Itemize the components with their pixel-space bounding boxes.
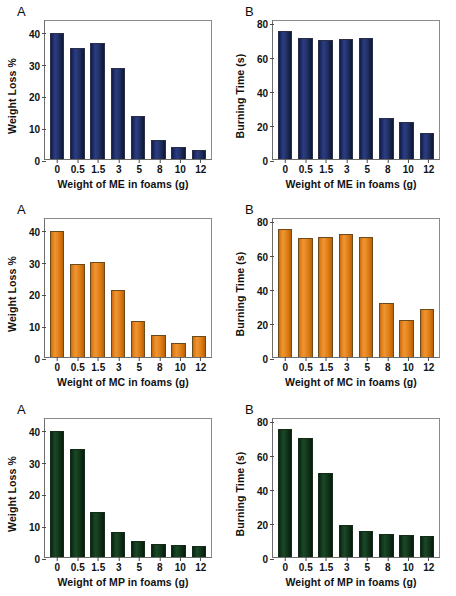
x-axis-tick-label: 12 — [423, 557, 434, 573]
x-axis-tick-label: 0.5 — [71, 159, 85, 175]
bar — [90, 43, 105, 159]
y-axis-tick-label: 60 — [257, 53, 273, 64]
y-axis-tick-label: 0 — [262, 354, 273, 365]
bar-slot — [88, 21, 108, 159]
x-axis-tick-label: 10 — [403, 357, 414, 373]
bar — [111, 68, 126, 159]
bar-slot — [275, 21, 295, 159]
bar — [50, 431, 65, 557]
panel-mp-burning-time: BBurning Time (s)Weight of MP in foams (… — [228, 398, 456, 596]
x-axis-tick-label: 1.5 — [319, 357, 333, 373]
bar-slot — [376, 219, 396, 357]
x-axis-tick-label: 10 — [175, 557, 186, 573]
x-axis-tick-label: 8 — [385, 159, 391, 175]
bar — [192, 150, 207, 159]
panel-mp-weight-loss: AWeight Loss %Weight of MP in foams (g)0… — [0, 398, 228, 596]
y-axis-tick-label: 10 — [29, 522, 45, 533]
bar — [379, 303, 394, 357]
bar-slot — [67, 419, 87, 557]
panel-letter: A — [17, 402, 26, 417]
x-axis-tick-label: 8 — [157, 159, 163, 175]
bar — [90, 262, 105, 357]
x-axis-tick-label: 10 — [403, 557, 414, 573]
x-axis-tick-label: 8 — [157, 357, 163, 373]
bar-slot — [417, 219, 437, 357]
x-axis-tick-label: 12 — [195, 557, 206, 573]
y-axis-tick-label: 80 — [257, 19, 273, 30]
bar — [379, 534, 394, 557]
y-axis-tick-label: 60 — [257, 451, 273, 462]
bar — [399, 122, 414, 159]
bar-series — [273, 219, 439, 357]
bar-slot — [316, 21, 336, 159]
bar-series — [45, 21, 211, 159]
bar — [50, 33, 65, 159]
y-axis-tick-label: 20 — [257, 519, 273, 530]
bar-slot — [67, 219, 87, 357]
plot-area: 01020304000.51.53581012 — [44, 20, 212, 160]
bar — [318, 40, 333, 160]
x-axis-tick-label: 1.5 — [319, 159, 333, 175]
bar-slot — [108, 219, 128, 357]
x-axis-title: Weight of MC in foams (g) — [28, 376, 218, 388]
x-axis-title: Weight of ME in foams (g) — [28, 178, 218, 190]
bar — [298, 438, 313, 558]
y-axis-tick-label: 20 — [29, 92, 45, 103]
bar — [359, 531, 374, 557]
bar — [111, 532, 126, 557]
y-axis-tick-label: 40 — [257, 285, 273, 296]
bar — [50, 231, 65, 357]
y-axis-tick-label: 40 — [29, 226, 45, 237]
bar — [298, 38, 313, 159]
x-axis-tick-label: 3 — [116, 159, 122, 175]
bar — [131, 116, 146, 159]
x-axis-tick-label: 10 — [175, 357, 186, 373]
y-axis-tick-label: 20 — [257, 319, 273, 330]
bar-slot — [316, 219, 336, 357]
x-axis-tick-label: 0 — [282, 357, 288, 373]
y-axis-tick-label: 20 — [29, 290, 45, 301]
bar-slot — [108, 21, 128, 159]
bar-slot — [148, 419, 168, 557]
panel-mc-weight-loss: AWeight Loss %Weight of MC in foams (g)0… — [0, 198, 228, 396]
panel-letter: B — [245, 402, 254, 417]
bar-slot — [295, 21, 315, 159]
x-axis-title: Weight of ME in foams (g) — [256, 178, 446, 190]
x-axis-tick-label: 3 — [116, 357, 122, 373]
x-axis-tick-label: 8 — [385, 557, 391, 573]
bar-slot — [169, 21, 189, 159]
bar-slot — [417, 419, 437, 557]
bar — [90, 512, 105, 557]
bar — [192, 546, 207, 557]
panel-letter: B — [245, 202, 254, 217]
x-axis-tick-label: 1.5 — [91, 557, 105, 573]
x-axis-title: Weight of MP in foams (g) — [256, 576, 446, 588]
bar-slot — [316, 419, 336, 557]
bar — [359, 38, 374, 159]
panel-me-weight-loss: AWeight Loss %Weight of ME in foams (g)0… — [0, 0, 228, 198]
bar — [379, 118, 394, 159]
x-axis-tick-label: 5 — [364, 159, 370, 175]
bar — [171, 343, 186, 357]
bar-slot — [47, 419, 67, 557]
bar-slot — [189, 219, 209, 357]
x-axis-title: Weight of MP in foams (g) — [28, 576, 218, 588]
x-axis-tick-label: 8 — [157, 557, 163, 573]
bar-slot — [128, 21, 148, 159]
y-axis-tick-label: 30 — [29, 458, 45, 469]
bar — [111, 290, 126, 357]
bar-slot — [397, 219, 417, 357]
bar-slot — [47, 21, 67, 159]
bar-slot — [47, 219, 67, 357]
bar — [131, 541, 146, 557]
x-axis-tick-label: 0.5 — [299, 557, 313, 573]
y-axis-tick-label: 30 — [29, 258, 45, 269]
bar — [278, 429, 293, 557]
bar — [192, 336, 207, 357]
bar — [151, 140, 166, 159]
plot-area: 02040608000.51.53581012 — [272, 418, 440, 558]
x-axis-tick-label: 1.5 — [319, 557, 333, 573]
x-axis-tick-label: 12 — [423, 357, 434, 373]
bar-series — [45, 419, 211, 557]
y-axis-tick-label: 0 — [34, 156, 45, 167]
